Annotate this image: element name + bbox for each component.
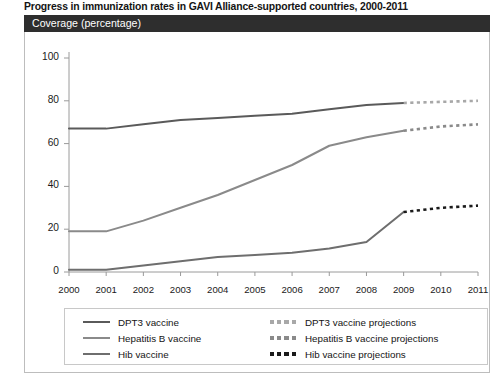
plot-area: 020406080100 200020012002200320042005200… xyxy=(24,32,490,302)
legend-item[interactable]: DPT3 vaccine xyxy=(83,314,201,330)
legend-item[interactable]: Hepatitis B vaccine xyxy=(83,330,201,346)
chart-legend: DPT3 vaccineHepatitis B vaccineHib vacci… xyxy=(64,308,488,365)
y-tick-label: 100 xyxy=(25,51,59,62)
legend-item[interactable]: Hepatitis B vaccine projections xyxy=(270,330,438,346)
legend-dashed-swatch-icon xyxy=(270,349,297,359)
series-line xyxy=(69,103,404,129)
plot-svg xyxy=(24,32,490,302)
legend-column-projections: DPT3 vaccine projectionsHepatitis B vacc… xyxy=(270,314,438,362)
x-tick-label: 2006 xyxy=(275,284,309,295)
chart-figure: Progress in immunization rates in GAVI A… xyxy=(0,0,497,379)
series-line xyxy=(404,206,478,212)
y-tick-label: 60 xyxy=(25,137,59,148)
legend-dashed-swatch-icon xyxy=(270,333,297,343)
series-line xyxy=(404,101,478,103)
legend-column-series: DPT3 vaccineHepatitis B vaccineHib vacci… xyxy=(83,314,201,362)
x-tick-label: 2001 xyxy=(89,284,123,295)
x-tick-label: 2003 xyxy=(164,284,198,295)
x-tick-label: 2004 xyxy=(201,284,235,295)
x-tick-label: 2000 xyxy=(52,284,86,295)
legend-item-label: Hib vaccine xyxy=(118,349,169,360)
x-tick-label: 2009 xyxy=(387,284,421,295)
y-axis-title: Coverage (percentage) xyxy=(32,17,141,29)
series-line xyxy=(69,212,404,270)
legend-line-swatch-icon xyxy=(83,333,110,343)
legend-item-label: Hepatitis B vaccine xyxy=(118,333,201,344)
y-tick-label: 40 xyxy=(25,179,59,190)
legend-item-label: Hepatitis B vaccine projections xyxy=(305,333,438,344)
x-tick-label: 2002 xyxy=(126,284,160,295)
legend-item-label: Hib vaccine projections xyxy=(305,349,406,360)
x-tick-label: 2008 xyxy=(349,284,383,295)
legend-line-swatch-icon xyxy=(83,317,110,327)
legend-item[interactable]: DPT3 vaccine projections xyxy=(270,314,438,330)
legend-line-swatch-icon xyxy=(83,349,110,359)
legend-item-label: DPT3 vaccine xyxy=(118,317,179,328)
x-tick-label: 2007 xyxy=(312,284,346,295)
legend-dashed-swatch-icon xyxy=(270,317,297,327)
y-axis-title-banner: Coverage (percentage) xyxy=(24,15,490,32)
series-line xyxy=(69,131,404,232)
x-tick-label: 2010 xyxy=(424,284,458,295)
legend-item[interactable]: Hib vaccine xyxy=(83,346,201,362)
legend-item-label: DPT3 vaccine projections xyxy=(305,317,416,328)
x-tick-label: 2005 xyxy=(238,284,272,295)
y-tick-label: 80 xyxy=(25,94,59,105)
y-tick-label: 20 xyxy=(25,222,59,233)
series-line xyxy=(404,124,478,130)
x-tick-label: 2011 xyxy=(461,284,495,295)
legend-item[interactable]: Hib vaccine projections xyxy=(270,346,438,362)
page-title: Progress in immunization rates in GAVI A… xyxy=(24,1,408,12)
y-tick-label: 0 xyxy=(25,265,59,276)
